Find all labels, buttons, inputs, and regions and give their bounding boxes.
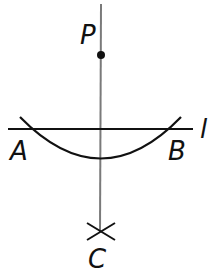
label-a: A (8, 136, 28, 166)
label-p: P (80, 20, 96, 50)
construction-diagram: P A B l C (0, 0, 219, 280)
perpendicular-line (100, 4, 101, 232)
point-p (97, 51, 105, 59)
label-l: l (200, 114, 208, 144)
label-c: C (88, 244, 107, 274)
label-b: B (168, 136, 186, 166)
